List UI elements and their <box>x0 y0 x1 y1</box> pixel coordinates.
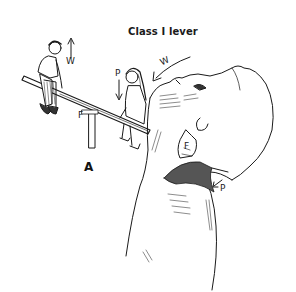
seesaw-weight-label: W <box>66 56 75 66</box>
boy-figure <box>38 41 62 114</box>
seesaw-force-arrows <box>68 38 122 100</box>
head-power-label: P <box>220 183 225 193</box>
girl-figure <box>120 68 146 149</box>
panel-label: A <box>84 160 93 174</box>
head-fulcrum-label: F <box>184 141 189 151</box>
figure-title: Class I lever <box>128 26 198 37</box>
head-neck-figure <box>126 66 273 290</box>
seesaw-fulcrum-label: F <box>78 110 83 120</box>
seesaw-power-label: P <box>115 68 120 78</box>
lever-illustration <box>0 0 296 292</box>
